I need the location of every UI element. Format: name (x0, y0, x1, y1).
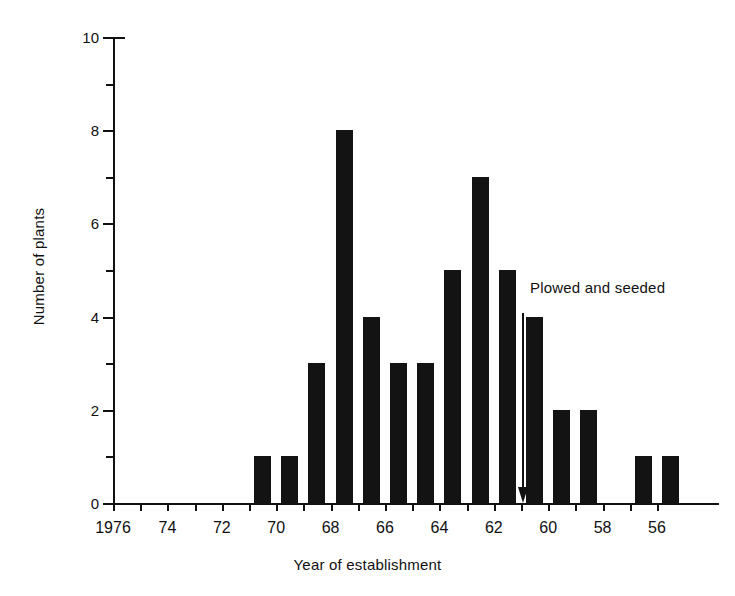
bar (308, 363, 325, 503)
y-tick-major (103, 37, 113, 39)
bar (499, 270, 516, 503)
y-tick-minor (106, 456, 113, 458)
x-tick (303, 503, 305, 511)
bar (662, 456, 679, 503)
x-tick (412, 503, 414, 511)
plot-area: 0246810 197674727068666462605856 Plowed … (113, 37, 717, 503)
y-tick-major (103, 503, 113, 505)
x-tick (276, 503, 278, 511)
x-tick (603, 503, 605, 511)
y-tick-minor (106, 270, 113, 272)
x-tick (467, 503, 469, 511)
x-tick (167, 503, 169, 511)
y-tick-minor (106, 363, 113, 365)
x-tick-label: 72 (213, 519, 231, 537)
annotation-label: Plowed and seeded (530, 279, 665, 296)
x-tick (657, 503, 659, 511)
x-tick-label: 56 (648, 519, 666, 537)
y-axis-title: Number of plants (30, 167, 47, 367)
x-tick-label: 68 (322, 519, 340, 537)
bar (444, 270, 461, 503)
x-tick-label: 70 (267, 519, 285, 537)
y-axis-top-cap (113, 37, 125, 39)
y-tick-major (103, 223, 113, 225)
annotation-arrow-down-icon (516, 313, 530, 503)
bar (254, 456, 271, 503)
bar (635, 456, 652, 503)
y-tick-label: 6 (91, 215, 99, 232)
bar (363, 317, 380, 503)
x-tick (358, 503, 360, 511)
x-tick (140, 503, 142, 511)
x-tick (222, 503, 224, 511)
x-axis-title: Year of establishment (0, 556, 735, 573)
bar (580, 410, 597, 503)
y-axis-line (113, 37, 115, 505)
y-tick-label: 10 (82, 29, 99, 46)
x-tick (521, 503, 523, 511)
bar (390, 363, 407, 503)
x-tick-label: 58 (594, 519, 612, 537)
bar (417, 363, 434, 503)
x-tick-label: 1976 (95, 519, 131, 537)
x-tick (195, 503, 197, 511)
y-tick-major (103, 410, 113, 412)
x-tick-label: 66 (376, 519, 394, 537)
x-tick (113, 503, 115, 511)
bar (281, 456, 298, 503)
bar (336, 130, 353, 503)
x-tick (548, 503, 550, 511)
bar (553, 410, 570, 503)
y-tick-label: 0 (91, 495, 99, 512)
x-tick-label: 62 (485, 519, 503, 537)
x-tick (331, 503, 333, 511)
y-tick-label: 4 (91, 308, 99, 325)
y-tick-major (103, 317, 113, 319)
x-tick (249, 503, 251, 511)
x-tick (385, 503, 387, 511)
x-tick (575, 503, 577, 511)
x-tick (439, 503, 441, 511)
bar (472, 177, 489, 503)
x-tick-label: 60 (539, 519, 557, 537)
x-tick-label: 64 (430, 519, 448, 537)
x-tick-label: 74 (158, 519, 176, 537)
y-tick-label: 8 (91, 122, 99, 139)
x-axis-line (113, 503, 719, 505)
x-tick (630, 503, 632, 511)
y-tick-major (103, 130, 113, 132)
y-tick-minor (106, 84, 113, 86)
x-tick (494, 503, 496, 511)
chart-figure: Number of plants Year of establishment 0… (0, 0, 735, 596)
y-tick-label: 2 (91, 401, 99, 418)
y-tick-minor (106, 177, 113, 179)
